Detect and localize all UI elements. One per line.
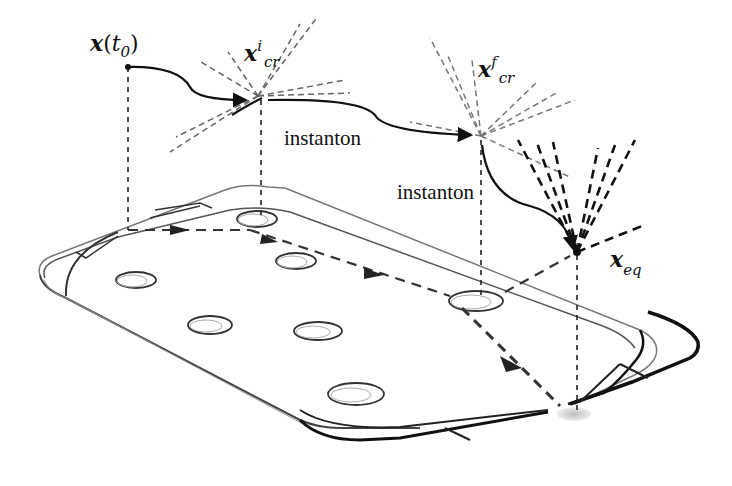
wells bbox=[116, 211, 503, 405]
label-x-cr-i: xicr bbox=[244, 40, 280, 66]
paren-close: ) bbox=[130, 31, 139, 56]
equilibrium-shadow bbox=[557, 407, 591, 421]
label-instanton-1: instanton bbox=[284, 126, 361, 151]
plate bbox=[39, 186, 698, 440]
well bbox=[188, 316, 232, 334]
t-symbol: t bbox=[112, 31, 121, 56]
well bbox=[276, 253, 316, 269]
well bbox=[237, 211, 277, 227]
arrow-icon bbox=[170, 225, 190, 235]
well bbox=[294, 322, 342, 340]
fan-x-eq bbox=[518, 140, 642, 252]
paren-open: ( bbox=[103, 31, 112, 56]
t-subscript: 0 bbox=[121, 43, 131, 61]
diagram-canvas bbox=[0, 0, 732, 486]
trajectory bbox=[128, 67, 573, 248]
x-symbol: x bbox=[610, 246, 623, 272]
superscript: i bbox=[257, 37, 262, 55]
x-symbol: x bbox=[90, 30, 103, 56]
x-symbol: x bbox=[244, 40, 257, 66]
plate-bottom-front-edge bbox=[300, 412, 548, 440]
superscript: f bbox=[491, 53, 497, 71]
label-instanton-2: instanton bbox=[397, 180, 474, 205]
label-x-eq: xeq bbox=[610, 246, 642, 272]
label-x-cr-f: xfcr bbox=[478, 56, 514, 82]
equilibrium-point bbox=[573, 248, 581, 256]
x-symbol: x bbox=[478, 56, 491, 82]
label-x-t0: x(t0) bbox=[90, 30, 139, 56]
subscript: eq bbox=[623, 261, 641, 279]
well bbox=[116, 272, 156, 288]
start-point bbox=[125, 64, 131, 70]
projection-lines bbox=[128, 67, 577, 410]
subscript: cr bbox=[499, 69, 515, 87]
well bbox=[328, 383, 384, 405]
projected-path-arrows bbox=[170, 225, 522, 372]
subscript: cr bbox=[264, 53, 280, 71]
well bbox=[449, 291, 503, 311]
